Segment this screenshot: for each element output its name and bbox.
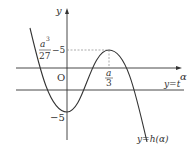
curve-h-alpha [30,28,147,142]
origin-label: O [57,72,65,83]
max-x-numerator: a [106,68,111,78]
min-y-label: −5 [50,112,65,123]
curve-label: y=h(α) [136,134,169,144]
line-label: y=t [163,79,181,89]
y-axis-arrow-icon [65,8,69,14]
annotation-exponent: 3 [46,35,50,42]
annotation-suffix: −5 [52,45,66,55]
max-x-denominator: 3 [106,78,112,88]
alpha-axis-arrow-icon [176,66,182,70]
graph-diagram: y α O a 3 27 −5 a 3 −5 y=t y=h(α) [0,0,192,151]
graph-canvas: y α O a 3 27 −5 a 3 −5 y=t y=h(α) [0,0,192,151]
y-axis-label: y [55,5,62,16]
annotation-numerator: a [40,39,45,49]
alpha-axis-label: α [180,71,187,82]
annotation-denominator: 27 [39,51,51,61]
